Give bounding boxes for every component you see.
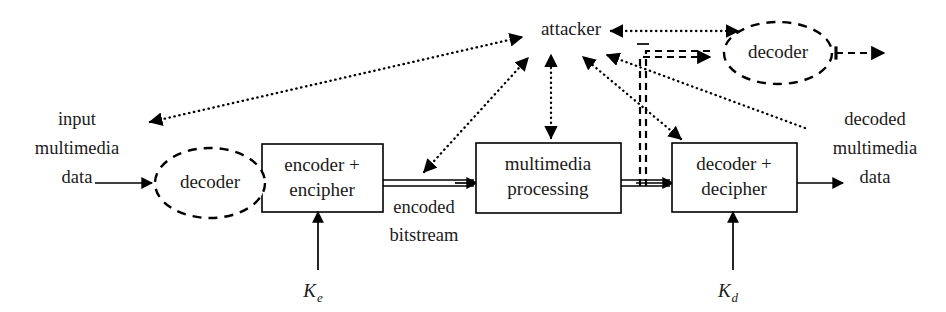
encoder-label-line1: encoder + xyxy=(284,154,360,175)
key-encrypt-symbol: K xyxy=(302,280,317,301)
key-encrypt-label: Ke xyxy=(302,280,323,305)
decipher-label-line1: decoder + xyxy=(696,153,772,174)
input-data-label-line2: multimedia xyxy=(35,138,119,158)
diagram-root: decoder encoder + encipher multimedia pr… xyxy=(0,0,946,312)
input-decoder-label: decoder xyxy=(180,171,241,192)
diagram-canvas: decoder encoder + encipher multimedia pr… xyxy=(0,0,946,312)
decoded-data-label-line1: decoded xyxy=(844,109,906,129)
edge-attacker-to-decipher xyxy=(583,57,681,139)
processing-label-line1: multimedia xyxy=(505,153,592,174)
output-decoder-label: decoder xyxy=(748,41,809,62)
decoded-data-label-line2: multimedia xyxy=(833,138,917,158)
key-encrypt-subscript: e xyxy=(317,290,323,305)
key-decrypt-symbol: K xyxy=(717,280,732,301)
svg-text:Kd: Kd xyxy=(717,280,739,305)
svg-text:Ke: Ke xyxy=(302,280,323,305)
processing-label-line2: processing xyxy=(507,178,589,199)
attacker-label: attacker xyxy=(541,18,602,39)
encoder-label-line2: encipher xyxy=(289,179,355,200)
key-decrypt-subscript: d xyxy=(732,290,739,305)
encoded-bitstream-label-line1: encoded xyxy=(393,197,455,217)
decoded-data-label-line3: data xyxy=(860,167,891,187)
encoded-bitstream-label-line2: bitstream xyxy=(390,225,459,245)
input-data-label-line3: data xyxy=(62,167,93,187)
edge-attacker-to-input-data xyxy=(150,37,522,122)
input-data-label-line1: input xyxy=(58,109,97,129)
edge-encoder-to-processing xyxy=(383,180,477,186)
decipher-label-line2: decipher xyxy=(701,178,767,199)
key-decrypt-label: Kd xyxy=(717,280,739,305)
